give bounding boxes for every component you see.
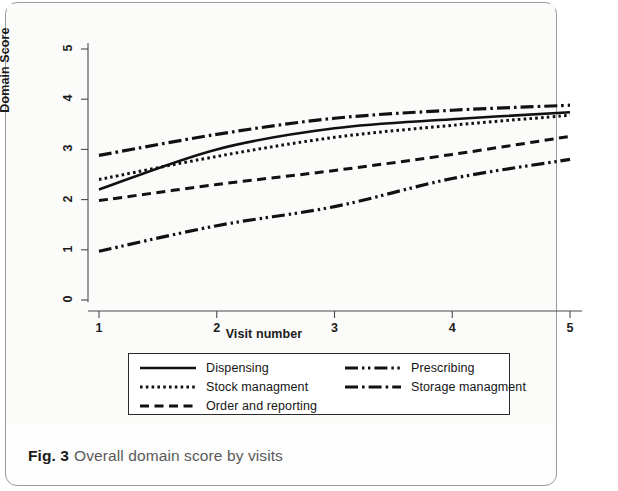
legend-item-storage-managment[interactable]: Storage managment — [344, 378, 526, 396]
figure-caption-label: Fig. 3 — [28, 447, 69, 464]
series-line-prescribing — [99, 159, 570, 251]
y-tick-label: 1 — [61, 238, 75, 260]
figure-caption: Fig. 3Overall domain score by visits — [28, 447, 283, 465]
x-tick-label: 2 — [206, 321, 228, 335]
legend-item-label: Storage managment — [411, 380, 526, 394]
legend-line-sample — [139, 361, 197, 375]
legend-item-label: Order and reporting — [206, 399, 317, 413]
y-tick-label: 4 — [61, 87, 75, 109]
legend-item-dispensing[interactable]: Dispensing — [139, 359, 269, 377]
legend-item-label: Stock managment — [206, 380, 308, 394]
y-tick-label: 3 — [61, 137, 75, 159]
x-tick-label: 4 — [441, 321, 463, 335]
y-tick-label: 2 — [61, 188, 75, 210]
y-tick-label: 0 — [61, 288, 75, 310]
legend-item-prescribing[interactable]: Prescribing — [344, 359, 475, 377]
legend-line-sample — [344, 380, 402, 394]
legend-item-label: Prescribing — [411, 361, 475, 375]
x-axis-title: Visit number — [0, 327, 573, 341]
legend-item-order-and-reporting[interactable]: Order and reporting — [139, 397, 317, 415]
chart-series-group — [99, 105, 570, 251]
legend-item-stock-managment[interactable]: Stock managment — [139, 378, 308, 396]
legend-item-label: Dispensing — [206, 361, 269, 375]
chart-legend: DispensingPrescribingStock managmentStor… — [128, 353, 510, 415]
legend-line-sample — [139, 399, 197, 413]
figure-caption-text: Overall domain score by visits — [74, 447, 283, 464]
chart-axes — [81, 43, 582, 318]
x-tick-label: 1 — [88, 321, 110, 335]
x-tick-label: 5 — [559, 321, 581, 335]
y-axis-title: Domain Score — [0, 10, 12, 130]
series-line-storage-managment — [99, 105, 570, 155]
legend-line-sample — [139, 380, 197, 394]
legend-line-sample — [344, 361, 402, 375]
x-tick-label: 3 — [324, 321, 346, 335]
series-line-order-and-reporting — [99, 136, 570, 200]
series-line-dispensing — [99, 112, 570, 189]
y-tick-label: 5 — [61, 37, 75, 59]
